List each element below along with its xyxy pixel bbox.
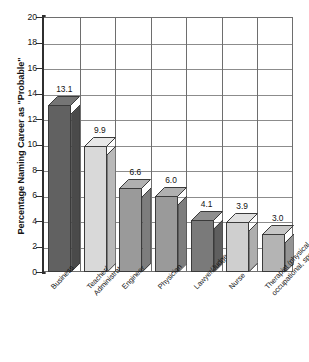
y-tick-label: 10 bbox=[0, 140, 37, 149]
gridline-horizontal bbox=[44, 146, 292, 147]
y-tick-label: 12 bbox=[0, 115, 37, 124]
y-tick-label: 8 bbox=[0, 166, 37, 175]
bar-chart: Percentage Naming Career as "Probable" 0… bbox=[0, 0, 309, 362]
bar-side-face bbox=[249, 222, 258, 272]
bar-value-label: 13.1 bbox=[40, 84, 88, 94]
y-tick-label: 4 bbox=[0, 217, 37, 226]
bar-value-label: 9.9 bbox=[76, 125, 124, 135]
gridline-horizontal bbox=[44, 44, 292, 45]
bar-value-label: 6.0 bbox=[147, 175, 195, 185]
bar-value-label: 3.0 bbox=[254, 213, 302, 223]
y-tick-label: 20 bbox=[0, 13, 37, 22]
gridline-horizontal bbox=[44, 95, 292, 96]
y-tick-label: 14 bbox=[0, 89, 37, 98]
bar-front-face bbox=[119, 188, 142, 272]
bar-1 bbox=[48, 96, 80, 272]
bar-front-face bbox=[155, 196, 178, 273]
bar-2 bbox=[84, 137, 116, 272]
x-axis-label-6: Nurse bbox=[227, 271, 247, 291]
y-tick-label: 18 bbox=[0, 38, 37, 47]
bar-value-label: 3.9 bbox=[218, 201, 266, 211]
bar-front-face bbox=[84, 146, 107, 272]
bar-front-face bbox=[226, 222, 249, 272]
gridline-horizontal bbox=[44, 120, 292, 121]
y-tick-label: 16 bbox=[0, 64, 37, 73]
bar-3 bbox=[119, 179, 151, 272]
y-tick-label: 6 bbox=[0, 191, 37, 200]
gridline-horizontal bbox=[44, 69, 292, 70]
y-tick-label: 2 bbox=[0, 242, 37, 251]
bar-front-face bbox=[48, 105, 71, 272]
gridline-horizontal bbox=[44, 171, 292, 172]
bar-side-face bbox=[142, 188, 151, 272]
y-tick-label: 0 bbox=[0, 268, 37, 277]
